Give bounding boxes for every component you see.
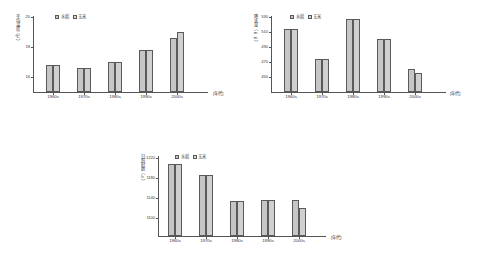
chart3-y-ticklabel-1140: 1140 — [139, 196, 155, 200]
chart2-bar-1980s-maize — [353, 19, 360, 92]
chart3-y-tick-1100 — [156, 218, 159, 219]
chart3-bar-1970s-maize — [206, 175, 213, 236]
chart3-x-axis-unit: （年代） — [328, 236, 344, 240]
chart1-y-tick-20 — [31, 17, 34, 18]
chart3-plot-area: 1220 1180 1140 1100 1960s 1970s 1980s 19… — [130, 140, 368, 273]
chart3-bar-1990s-rice — [261, 200, 268, 236]
chart1-x-ticklabel-1980s: 1980s — [104, 95, 126, 99]
chart2-y-ticklabel-470: 470 — [255, 60, 268, 64]
chart2-x-ticklabel-1980s: 1980s — [342, 95, 364, 99]
chart3-y-axis — [158, 156, 159, 236]
chart3-bar-1960s-maize — [175, 164, 182, 236]
chart2-x-ticklabel-1970s: 1970s — [311, 95, 333, 99]
chart1-x-axis — [33, 92, 208, 93]
chart2-bar-1980s-rice — [346, 19, 353, 92]
chart1-x-ticklabel-2000s: 2000s — [166, 95, 188, 99]
chart3-x-ticklabel-1970s: 1970s — [195, 239, 217, 243]
chart2-x-axis-unit: （年代） — [447, 92, 463, 96]
chart3-bar-1960s-rice — [168, 164, 175, 236]
chart2-bar-1970s-rice — [315, 59, 322, 92]
chart1-y-axis — [33, 16, 34, 92]
chart2-y-ticklabel-530: 530 — [255, 15, 268, 19]
chart1-bar-1990s-rice — [139, 50, 146, 92]
chart1-x-ticklabel-1960s: 1960s — [42, 95, 64, 99]
chart3-x-ticklabel-1990s: 1990s — [257, 239, 279, 243]
chart3-y-tick-1140 — [156, 198, 159, 199]
chart1-bar-2000s-maize — [177, 32, 184, 92]
chart3-y-ticklabel-1180: 1180 — [139, 176, 155, 180]
chart1-bar-1990s-maize — [146, 50, 153, 92]
chart1-bar-1970s-rice — [77, 68, 84, 92]
chart-precipitation: 降水量（mm） 水稻 玉米 530 510 490 470 450 — [240, 0, 478, 120]
chart2-plot-area: 530 510 490 470 450 1960s 1970s 1980s 19… — [240, 0, 478, 120]
chart1-y-tick-16 — [31, 77, 34, 78]
chart-sunshine-hours: 日照时数（h） 水稻 玉米 1220 1180 1140 1100 — [130, 140, 368, 273]
chart1-x-ticklabel-1970s: 1970s — [73, 95, 95, 99]
chart3-x-axis — [158, 236, 326, 237]
chart2-x-ticklabel-1960s: 1960s — [280, 95, 302, 99]
chart1-bar-1980s-rice — [108, 62, 115, 92]
chart1-y-ticklabel-20: 20 — [20, 15, 30, 19]
chart2-x-ticklabel-2000s: 2000s — [404, 95, 426, 99]
chart1-bar-1960s-maize — [53, 65, 60, 92]
chart2-y-axis — [271, 16, 272, 92]
chart2-bar-2000s-rice — [408, 69, 415, 93]
chart2-y-tick-530 — [269, 17, 272, 18]
chart-average-temperature: 平均温度（℃） 水稻 玉米 20 18 16 — [0, 0, 240, 120]
chart3-x-ticklabel-2000s: 2000s — [288, 239, 310, 243]
chart1-y-tick-18 — [31, 47, 34, 48]
chart2-bar-1990s-maize — [384, 39, 391, 92]
chart3-bar-2000s-maize — [299, 208, 306, 236]
chart3-y-tick-1180 — [156, 178, 159, 179]
chart3-y-tick-1220 — [156, 158, 159, 159]
chart2-x-axis — [271, 92, 446, 93]
chart3-bar-1970s-rice — [199, 175, 206, 236]
chart1-bar-2000s-rice — [170, 38, 177, 93]
chart2-y-tick-490 — [269, 47, 272, 48]
chart1-bar-1970s-maize — [84, 68, 91, 92]
chart1-bar-1980s-maize — [115, 62, 122, 92]
chart1-bar-1960s-rice — [46, 65, 53, 92]
chart2-bar-2000s-maize — [415, 73, 422, 92]
chart2-y-tick-450 — [269, 77, 272, 78]
chart2-y-tick-470 — [269, 62, 272, 63]
chart1-x-axis-unit: （年代） — [210, 92, 226, 96]
chart3-y-ticklabel-1100: 1100 — [139, 216, 155, 220]
chart2-bar-1960s-rice — [284, 29, 291, 92]
chart1-plot-area: 20 18 16 1960s 1970s 1980s 1990s 2000s — [0, 0, 240, 120]
chart2-bar-1960s-maize — [291, 29, 298, 92]
chart2-y-ticklabel-450: 450 — [255, 75, 268, 79]
chart3-y-ticklabel-1220: 1220 — [139, 156, 155, 160]
chart1-x-ticklabel-1990s: 1990s — [135, 95, 157, 99]
chart1-y-ticklabel-16: 16 — [20, 75, 30, 79]
chart3-bar-1990s-maize — [268, 200, 275, 236]
chart2-y-ticklabel-510: 510 — [255, 30, 268, 34]
chart2-bar-1990s-rice — [377, 39, 384, 92]
chart3-x-ticklabel-1980s: 1980s — [226, 239, 248, 243]
chart2-x-ticklabel-1990s: 1990s — [373, 95, 395, 99]
chart3-x-ticklabel-1960s: 1960s — [164, 239, 186, 243]
chart3-bar-1980s-rice — [230, 201, 237, 236]
chart2-bar-1970s-maize — [322, 59, 329, 92]
chart2-y-ticklabel-490: 490 — [255, 45, 268, 49]
chart3-bar-2000s-rice — [292, 200, 299, 236]
chart3-bar-1980s-maize — [237, 201, 244, 236]
chart1-y-ticklabel-18: 18 — [20, 45, 30, 49]
chart2-y-tick-510 — [269, 32, 272, 33]
